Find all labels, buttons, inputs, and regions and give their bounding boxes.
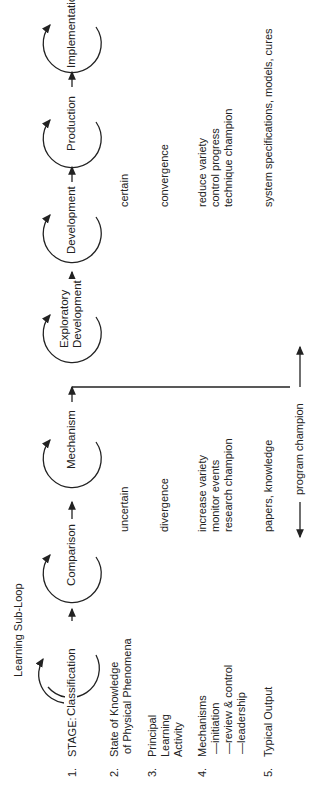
- stage-exploratory-development: Exploratory Development: [58, 279, 84, 349]
- row-num-5: 5.: [262, 768, 275, 777]
- row-num-1: 1.: [66, 768, 79, 777]
- diagram-title: Learning Sub-Loop: [12, 583, 25, 677]
- row-label-stage: STAGE:: [66, 717, 79, 757]
- stage-mechanism: Mechanism: [65, 409, 77, 470]
- activity-convergence: convergence: [158, 144, 171, 207]
- mechanisms-right: reduce variety control progress techniqu…: [196, 109, 235, 207]
- row-label-output: Typical Output: [262, 687, 275, 757]
- program-champion-label: program champion: [293, 403, 306, 495]
- row-num-2: 2.: [108, 768, 121, 777]
- knowledge-certain: certain: [118, 174, 131, 207]
- stage-classification: Classification: [65, 647, 77, 717]
- stage-production: Production: [65, 95, 77, 152]
- row-num-3: 3.: [146, 768, 159, 777]
- row-num-4: 4.: [196, 768, 209, 777]
- row-label-mechanisms: Mechanisms —initiation —review & control…: [196, 665, 248, 757]
- row-label-knowledge: State of Knowledge of Physical Phenomena: [108, 638, 134, 757]
- mechanisms-left: increase variety monitor events research…: [196, 438, 235, 532]
- stage-comparison: Comparison: [65, 523, 77, 587]
- output-right: system specifications, models, cures: [262, 28, 275, 207]
- stage-implementation: Implementation: [65, 0, 77, 69]
- activity-divergence: divergence: [158, 478, 171, 532]
- learning-subloop-diagram: Learning Sub-Loop Classification Compari…: [0, 0, 327, 787]
- stage-development: Development: [65, 185, 77, 255]
- output-left: papers, knowledge: [262, 440, 275, 532]
- diagram-lines: [0, 0, 327, 787]
- knowledge-uncertain: uncertain: [118, 487, 131, 532]
- row-label-activity: Principal Learning Activity: [146, 714, 185, 757]
